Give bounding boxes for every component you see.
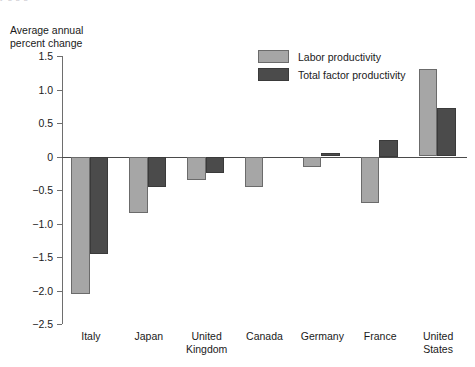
bar-labor-productivity [303,157,322,167]
bar-total-factor-productivity [90,157,109,254]
x-axis-label: France [351,330,409,343]
bar-labor-productivity [71,157,90,294]
bar-total-factor-productivity [321,153,340,156]
bar-labor-productivity [187,157,206,180]
y-tick-label: 0.5 [38,117,53,129]
y-axis-title: Average annual percent change [10,24,83,50]
bar-group [62,56,120,324]
y-tick-mark [57,324,62,325]
bar-group [293,56,351,324]
bar-total-factor-productivity [206,157,225,174]
bar-group [236,56,294,324]
bar-group [178,56,236,324]
bar-total-factor-productivity [437,108,456,156]
y-tick-label: −1.5 [32,251,53,263]
top-text-fragment: y g g g [0,0,475,3]
bar-total-factor-productivity [148,157,167,187]
y-tick-label: −0.5 [32,184,53,196]
y-tick-label: −1.0 [32,218,53,230]
y-tick-label: 1.0 [38,84,53,96]
bar-labor-productivity [419,69,438,156]
y-tick-label: 1.5 [38,50,53,62]
x-axis-label: United States [409,330,467,355]
bar-group [409,56,467,324]
x-axis-label: Italy [62,330,120,343]
y-tick-label: −2.5 [32,318,53,330]
bar-group [351,56,409,324]
bar-labor-productivity [129,157,148,214]
bar-total-factor-productivity [379,140,398,157]
x-axis-label: United Kingdom [178,330,236,355]
bar-labor-productivity [361,157,380,204]
x-axis-label: Germany [293,330,351,343]
y-tick-label: −2.0 [32,285,53,297]
bar-chart-plot-area: 1.51.00.50−0.5−1.0−1.5−2.0−2.5 ItalyJapa… [62,56,467,324]
y-tick-label: 0 [47,151,53,163]
bar-labor-productivity [245,157,264,187]
x-axis-label: Canada [236,330,294,343]
bar-group [120,56,178,324]
x-axis-label: Japan [120,330,178,343]
